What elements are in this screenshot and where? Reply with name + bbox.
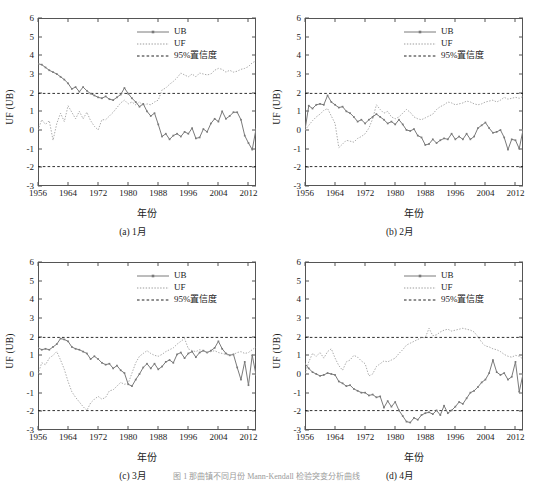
series-marker-ub-d bbox=[496, 371, 498, 373]
y-tick-label-d: 4 bbox=[297, 295, 302, 304]
series-marker-ub-d bbox=[391, 406, 393, 408]
series-marker-ub-d bbox=[372, 394, 374, 396]
series-marker-ub-c bbox=[90, 358, 92, 360]
series-marker-ub-c bbox=[184, 357, 186, 359]
series-marker-ub-c bbox=[101, 362, 103, 364]
x-tick-label-a: 1988 bbox=[149, 189, 167, 198]
legend-item-uf-b: UF bbox=[403, 38, 515, 50]
legend-label: 95%置信度 bbox=[441, 293, 485, 306]
series-marker-ub-a bbox=[240, 119, 242, 121]
legend-item-95-d: 95%置信度 bbox=[403, 294, 515, 306]
series-marker-ub-b bbox=[503, 137, 505, 139]
x-tick-label-a: 1980 bbox=[119, 189, 137, 198]
series-marker-ub-d bbox=[383, 407, 385, 409]
series-marker-ub-b bbox=[398, 119, 400, 121]
x-tick-label-c: 1964 bbox=[59, 433, 77, 442]
legend-swatch-icon bbox=[403, 39, 437, 49]
y-tick-label-b: 5 bbox=[297, 32, 302, 41]
series-marker-ub-d bbox=[402, 415, 404, 417]
y-tick-label-b: -2 bbox=[294, 163, 302, 172]
series-marker-ub-b bbox=[470, 138, 472, 140]
series-marker-ub-b bbox=[334, 104, 336, 106]
series-marker-ub-c bbox=[63, 339, 65, 341]
series-marker-ub-a bbox=[135, 101, 137, 103]
series-marker-ub-a bbox=[127, 93, 129, 95]
series-marker-ub-d bbox=[515, 361, 517, 363]
series-marker-ub-b bbox=[319, 103, 321, 105]
y-tick-label-d: 6 bbox=[297, 258, 302, 267]
series-marker-ub-c bbox=[187, 353, 189, 355]
series-marker-ub-a bbox=[169, 138, 171, 140]
series-marker-ub-a bbox=[94, 95, 96, 97]
series-marker-ub-b bbox=[451, 133, 453, 135]
series-marker-ub-b bbox=[327, 95, 329, 97]
series-marker-ub-c bbox=[176, 354, 178, 356]
series-marker-ub-d bbox=[323, 374, 325, 376]
legend-item-ub-c: UB bbox=[136, 270, 248, 282]
series-marker-ub-d bbox=[443, 405, 445, 407]
x-tick-label-c: 2004 bbox=[209, 433, 227, 442]
series-marker-ub-d bbox=[330, 373, 332, 375]
legend-swatch-icon bbox=[136, 271, 170, 281]
series-marker-ub-b bbox=[511, 138, 513, 140]
panel-caption-b: (b) 2月 bbox=[267, 224, 533, 238]
series-marker-ub-d bbox=[305, 363, 306, 365]
legend-item-ub-b: UB bbox=[403, 26, 515, 38]
legend-c: UBUF95%置信度 bbox=[134, 268, 250, 308]
series-marker-ub-d bbox=[454, 406, 456, 408]
series-marker-ub-a bbox=[90, 93, 92, 95]
series-marker-ub-c bbox=[94, 355, 96, 357]
x-tick-label-d: 1956 bbox=[296, 433, 314, 442]
x-tick-label-d: 1964 bbox=[326, 433, 344, 442]
series-marker-ub-b bbox=[330, 101, 332, 103]
x-tick-label-d: 2004 bbox=[476, 433, 494, 442]
series-marker-ub-c bbox=[214, 347, 216, 349]
series-marker-ub-a bbox=[109, 98, 111, 100]
series-marker-ub-c bbox=[240, 379, 242, 381]
series-marker-ub-a bbox=[105, 96, 107, 98]
series-marker-ub-d bbox=[518, 391, 520, 393]
y-tick-label-d: 0 bbox=[297, 370, 302, 379]
series-marker-ub-d bbox=[462, 403, 464, 405]
y-tick-label-c: -2 bbox=[27, 407, 35, 416]
x-tick-label-c: 1996 bbox=[179, 433, 197, 442]
series-marker-ub-d bbox=[387, 400, 389, 402]
y-tick-label-b: 2 bbox=[297, 88, 302, 97]
series-marker-ub-d bbox=[470, 392, 472, 394]
y-tick-label-c: 6 bbox=[30, 258, 35, 267]
series-marker-ub-a bbox=[78, 91, 80, 93]
series-marker-ub-b bbox=[413, 128, 415, 130]
series-marker-ub-d bbox=[522, 373, 523, 375]
series-marker-ub-c bbox=[248, 384, 250, 386]
y-tick-label-a: 4 bbox=[30, 51, 35, 60]
series-marker-ub-a bbox=[244, 135, 246, 137]
series-marker-ub-d bbox=[406, 421, 408, 423]
plot-area-b: -3-2-10123456195619641972198019881996200… bbox=[305, 18, 523, 186]
y-tick-label-a: 1 bbox=[30, 107, 35, 116]
x-tick-label-b: 2004 bbox=[476, 189, 494, 198]
y-tick-label-b: 0 bbox=[297, 126, 302, 135]
x-tick-label-b: 1980 bbox=[386, 189, 404, 198]
series-marker-ub-a bbox=[176, 133, 178, 135]
series-marker-ub-b bbox=[443, 138, 445, 140]
series-marker-ub-a bbox=[41, 64, 43, 66]
series-marker-ub-a bbox=[150, 115, 152, 117]
series-line-uf-c bbox=[38, 339, 256, 411]
legend-item-uf-d: UF bbox=[403, 282, 515, 294]
y-tick-label-d: 2 bbox=[297, 332, 302, 341]
series-marker-ub-d bbox=[492, 359, 494, 361]
series-line-ub-b bbox=[305, 95, 523, 149]
series-marker-ub-d bbox=[327, 372, 329, 374]
series-marker-ub-b bbox=[496, 131, 498, 133]
series-marker-ub-d bbox=[439, 414, 441, 416]
series-marker-ub-a bbox=[199, 137, 201, 139]
series-marker-ub-d bbox=[308, 368, 310, 370]
series-marker-ub-a bbox=[67, 82, 69, 84]
series-marker-ub-c bbox=[38, 347, 39, 349]
series-marker-ub-b bbox=[522, 129, 523, 131]
series-marker-ub-d bbox=[511, 376, 513, 378]
x-tick-label-c: 2012 bbox=[239, 433, 257, 442]
series-marker-ub-c bbox=[221, 348, 223, 350]
series-marker-ub-d bbox=[417, 419, 419, 421]
series-marker-ub-d bbox=[503, 372, 505, 374]
